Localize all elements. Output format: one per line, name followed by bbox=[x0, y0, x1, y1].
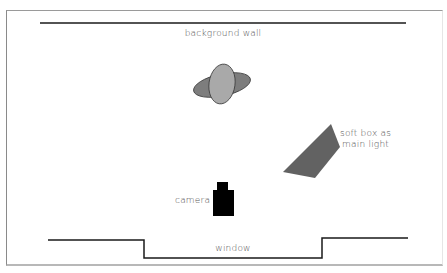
softbox-label-line2: main light bbox=[340, 139, 391, 150]
background-wall-label: background wall bbox=[185, 28, 262, 39]
softbox-icon bbox=[283, 124, 340, 178]
window-label: window bbox=[215, 243, 250, 254]
softbox-label: soft box as main light bbox=[340, 128, 391, 150]
subject-icon bbox=[191, 62, 252, 105]
camera-icon bbox=[213, 182, 234, 216]
softbox-label-line1: soft box as bbox=[340, 128, 391, 139]
camera-label: camera bbox=[175, 195, 210, 206]
